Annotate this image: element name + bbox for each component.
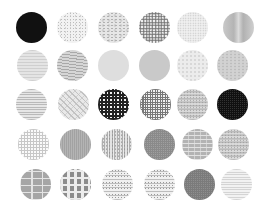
texture-swatch-tiles[interactable]: Tiles	[60, 169, 91, 200]
texture-swatch-grid-dark[interactable]: Dark grid	[217, 89, 248, 120]
texture-swatch-dotgrid[interactable]: Dot grid	[18, 129, 49, 160]
texture-swatch-scribble[interactable]: Scribble	[101, 129, 132, 160]
texture-swatch-bricks[interactable]: Bricks	[20, 169, 51, 200]
texture-swatch-check-dark[interactable]: Dark check	[98, 89, 129, 120]
texture-swatch-script[interactable]: Script text	[102, 169, 133, 200]
texture-swatch-speckle-light[interactable]: Light speckle	[57, 12, 88, 43]
texture-swatch-marble[interactable]: Marble	[98, 12, 129, 43]
texture-swatch-hlines[interactable]: Horizontal lines	[16, 89, 47, 120]
texture-swatch-lines-pale[interactable]: Pale lines	[221, 169, 252, 200]
texture-swatch-granite[interactable]: Granite	[139, 12, 170, 43]
texture-swatch-script[interactable]: Script text 2	[144, 169, 175, 200]
texture-swatch-flat-mid[interactable]: Flat mid gray	[139, 50, 170, 81]
texture-swatch-speckle-fine[interactable]: Fine speckle	[177, 12, 208, 43]
texture-swatch-bricks-small[interactable]: Small bricks	[182, 129, 213, 160]
texture-swatch-noise[interactable]: Noise dark	[218, 129, 249, 160]
texture-swatch-crackle[interactable]: Crackle	[58, 89, 89, 120]
texture-swatch-brushed[interactable]: Brushed metal	[223, 12, 254, 43]
texture-swatch-grid-grey[interactable]: Gray grid	[144, 129, 175, 160]
texture-swatch-wavy[interactable]: Wavy light	[17, 50, 48, 81]
texture-swatch-flat-light[interactable]: Flat light gray	[98, 50, 129, 81]
texture-swatch-mottled[interactable]: Mottled	[217, 50, 248, 81]
texture-swatch-flat-pale[interactable]: Pale mottled	[177, 50, 208, 81]
texture-swatch-fine-grey[interactable]: Fine gray	[60, 129, 91, 160]
texture-swatch-grid: Solid blackLight speckleMarbleGraniteFin…	[0, 0, 265, 211]
texture-swatch-solid-black[interactable]: Solid black	[16, 12, 47, 43]
texture-swatch-dark-grid-grey[interactable]: Dark gray grid	[184, 169, 215, 200]
texture-swatch-noise[interactable]: Noise	[177, 89, 208, 120]
texture-swatch-grid-mid[interactable]: Grid	[140, 89, 171, 120]
texture-swatch-wavy-dark[interactable]: Wavy	[57, 50, 88, 81]
